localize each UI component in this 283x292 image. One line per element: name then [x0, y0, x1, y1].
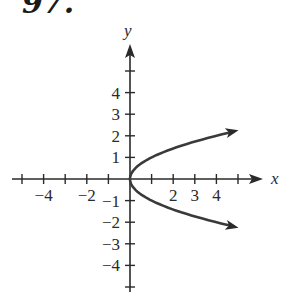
- y-tick-label: −1: [102, 192, 120, 211]
- parabola-graph: xy−4−22344321−1−2−3−4: [0, 0, 283, 292]
- y-tick-label: 3: [112, 105, 121, 124]
- y-tick-label: 4: [112, 84, 121, 103]
- y-tick-label: −4: [102, 256, 121, 275]
- x-tick-label: −2: [78, 186, 96, 205]
- y-tick-label: 1: [112, 148, 121, 167]
- x-tick-label: −4: [35, 186, 54, 205]
- y-tick-label: −3: [102, 235, 120, 254]
- y-tick-label: −2: [102, 213, 120, 232]
- x-tick-label: 4: [212, 186, 221, 205]
- x-axis-label: x: [270, 169, 279, 188]
- tick-labels: xy−4−22344321−1−2−3−4: [35, 21, 279, 275]
- x-tick-label: 3: [191, 186, 200, 205]
- y-tick-label: 2: [112, 127, 121, 146]
- y-axis-label: y: [122, 21, 132, 40]
- x-tick-label: 2: [169, 186, 178, 205]
